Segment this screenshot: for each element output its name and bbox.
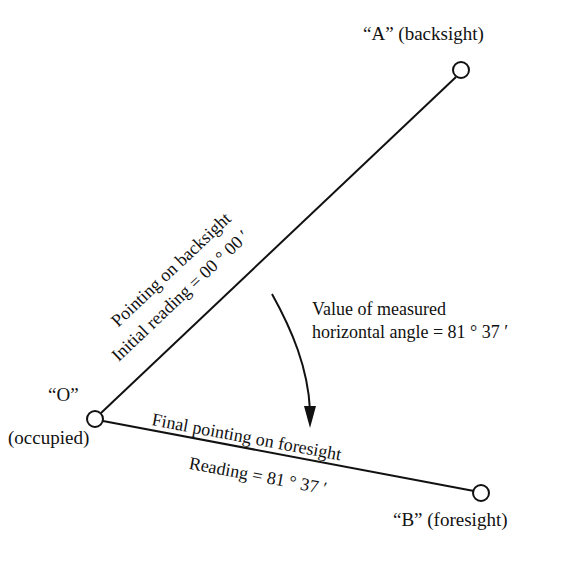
station-label-o-occupied: (occupied)	[8, 426, 89, 450]
station-node-o	[87, 411, 103, 427]
survey-angle-diagram: “A” (backsight) “O” (occupied) “B” (fore…	[0, 0, 573, 564]
station-node-a	[453, 62, 469, 78]
station-label-a: “A” (backsight)	[363, 22, 484, 46]
backsight-ray	[101, 77, 456, 413]
measured-angle-callout: Value of measured horizontal angle = 81 …	[312, 298, 562, 344]
station-label-o: “O”	[48, 383, 79, 407]
callout-line-1: Value of measured	[312, 299, 446, 319]
station-label-b: “B” (foresight)	[393, 508, 507, 532]
curved-arrow	[272, 294, 310, 410]
callout-line-2: horizontal angle = 81 ° 37 ′	[312, 321, 562, 344]
station-node-b	[473, 485, 489, 501]
curved-arrow-head	[304, 406, 316, 428]
